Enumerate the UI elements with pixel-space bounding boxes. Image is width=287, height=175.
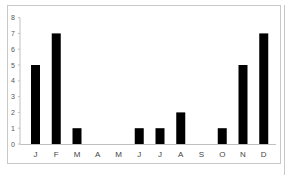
y-tick-label: 0 bbox=[11, 141, 15, 148]
bar bbox=[259, 33, 268, 144]
y-tick-label: 7 bbox=[11, 30, 15, 37]
y-tick-label: 1 bbox=[11, 125, 15, 132]
x-tick-label: J bbox=[137, 150, 141, 159]
x-tick-label: F bbox=[54, 150, 59, 159]
x-tick-label: D bbox=[261, 150, 267, 159]
bar bbox=[135, 128, 144, 144]
x-tick-label: J bbox=[158, 150, 162, 159]
x-tick-label: A bbox=[178, 150, 184, 159]
y-tick-label: 4 bbox=[11, 77, 15, 84]
bars bbox=[31, 33, 268, 144]
x-tick-label: O bbox=[219, 150, 225, 159]
y-tick-label: 3 bbox=[11, 93, 15, 100]
x-tick-label: A bbox=[95, 150, 101, 159]
y-tick-label: 8 bbox=[11, 14, 15, 21]
bar bbox=[239, 65, 248, 144]
x-tick-label: N bbox=[240, 150, 246, 159]
y-tick-label: 5 bbox=[11, 62, 15, 69]
bar bbox=[176, 112, 185, 144]
x-tick-label: S bbox=[199, 150, 204, 159]
bar bbox=[218, 128, 227, 144]
x-tick-label: M bbox=[115, 150, 122, 159]
y-tick-label: 2 bbox=[11, 109, 15, 116]
bar bbox=[156, 128, 165, 144]
y-axis: 012345678 bbox=[11, 14, 20, 147]
x-tick-label: M bbox=[74, 150, 81, 159]
x-tick-label: J bbox=[34, 150, 38, 159]
bar bbox=[52, 33, 61, 144]
y-tick-label: 6 bbox=[11, 46, 15, 53]
bar bbox=[73, 128, 82, 144]
bar-chart: 012345678 JFMAMJJASOND bbox=[0, 0, 287, 175]
bar bbox=[31, 65, 40, 144]
x-axis: JFMAMJJASOND bbox=[20, 145, 276, 160]
